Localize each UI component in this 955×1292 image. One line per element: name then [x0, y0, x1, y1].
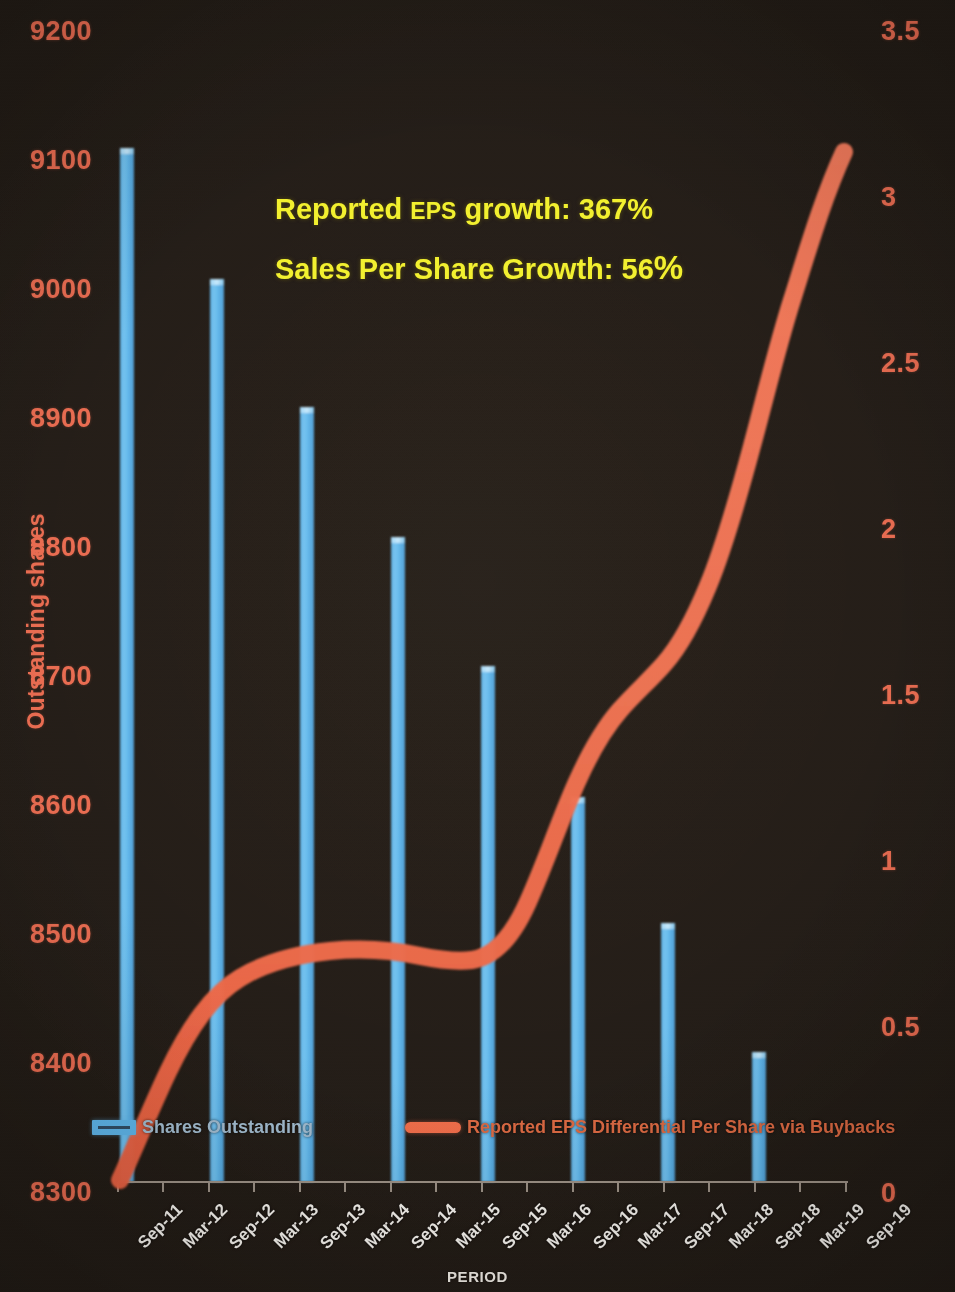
legend-item-eps-differential[interactable]: Reported EPS Differential Per Share via …	[405, 1117, 895, 1138]
annotation-sales-growth: Sales Per Share Growth: 56%	[275, 249, 683, 287]
legend-label-shares-outstanding: Shares Outstanding	[142, 1117, 313, 1138]
annotation-sales-growth-text: Sales Per Share Growth: 56	[275, 253, 654, 285]
annotation-eps-growth: Reported EPS growth: 367%	[275, 193, 653, 226]
left-axis-title: Outstanding shares	[23, 512, 50, 732]
right-tick-1-5: 1.5	[881, 680, 920, 711]
legend-line-swatch-icon	[405, 1122, 461, 1133]
right-tick-3-5: 3.5	[881, 16, 920, 47]
left-tick-8400: 8400	[30, 1048, 92, 1079]
left-tick-9000: 9000	[30, 274, 92, 305]
bar-sep-14	[391, 537, 405, 1182]
bar-sep-12	[210, 279, 224, 1182]
right-tick-1: 1	[881, 846, 897, 877]
annotation-eps-growth-value: growth: 367%	[456, 193, 653, 225]
left-tick-8300: 8300	[30, 1177, 92, 1208]
right-tick-0: 0	[881, 1178, 897, 1209]
x-axis	[118, 1182, 848, 1192]
bar-sep-17	[661, 923, 675, 1182]
annotation-sales-growth-unit: %	[654, 249, 683, 286]
bar-sep-11	[120, 148, 134, 1182]
right-tick-2-5: 2.5	[881, 348, 920, 379]
right-tick-0-5: 0.5	[881, 1012, 920, 1043]
bar-sep-15	[481, 666, 495, 1182]
left-tick-8600: 8600	[30, 790, 92, 821]
left-tick-9100: 9100	[30, 145, 92, 176]
legend-bar-swatch-icon	[92, 1120, 136, 1135]
legend-label-eps-differential: Reported EPS Differential Per Share via …	[467, 1117, 895, 1138]
chart-canvas: 9200 9100 9000 8900 8800 8700 8600 8500 …	[0, 0, 955, 1292]
left-tick-8900: 8900	[30, 403, 92, 434]
right-tick-2: 2	[881, 514, 897, 545]
left-tick-9200: 9200	[30, 16, 92, 47]
annotation-eps-growth-abbrev: EPS	[410, 198, 456, 224]
x-axis-title: PERIOD	[0, 1268, 955, 1285]
left-tick-8500: 8500	[30, 919, 92, 950]
right-tick-3: 3	[881, 182, 897, 213]
legend-item-shares-outstanding[interactable]: Shares Outstanding	[92, 1117, 313, 1138]
bar-sep-13	[300, 407, 314, 1182]
annotation-eps-growth-prefix: Reported	[275, 193, 410, 225]
